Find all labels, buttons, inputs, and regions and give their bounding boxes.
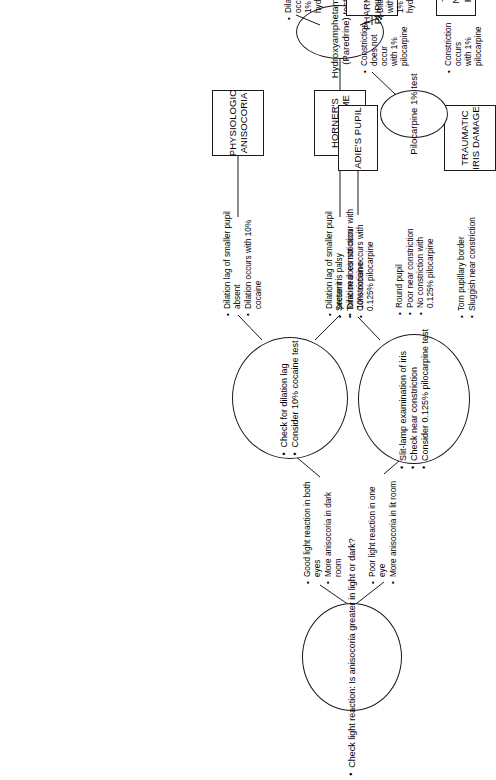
label-adies-item-0: Sector iris palsy xyxy=(335,214,345,318)
label-light-branch: Poor light reaction in one eye More anis… xyxy=(368,472,399,584)
label-pilocarpine-positive-item-0: Constriction occurs with 1% pilocarpine xyxy=(444,15,484,73)
node-slit-lamp-item-0: Slit-lamp examination of iris xyxy=(398,329,409,469)
node-pilocarpine-test-text: Pilocarpine 1% test xyxy=(408,67,420,160)
node-slit-lamp-item-2: Consider 0.125% pilocarpine test xyxy=(420,329,431,469)
label-torn-iris: Torn pupillary border Sluggish near cons… xyxy=(457,216,478,318)
label-hydroxy-positive: Dilation occurs with 1% hydroxyamphetami… xyxy=(376,0,417,20)
label-hydroxy-negative: Dilation does not occur with 1% hydroxya… xyxy=(284,0,325,20)
node-cocaine-test-text: Check for dilation lag Consider 10% coca… xyxy=(279,334,301,461)
node-adies-pupil[interactable]: ADIE'S PUPIL xyxy=(338,105,378,171)
node-slit-lamp-item-1: Check near constriction xyxy=(409,329,420,469)
label-torn-iris-item-1: Sluggish near constriction xyxy=(468,216,478,318)
label-adies-item-1: Tonic near constriction xyxy=(346,214,356,318)
label-cocaine-negative-item-0: Dilation lag of smaller pupil absent xyxy=(223,208,243,316)
label-light-branch-item-0: Poor light reaction in one eye xyxy=(368,472,388,584)
label-dark-branch: Good light reaction in both eyes More an… xyxy=(303,472,344,584)
label-round-pupil-item-1: Poor near constriction xyxy=(406,211,416,315)
label-round-pupil-item-2: No constriction with 0.125% pilocarpine xyxy=(416,211,436,315)
node-cocaine-test[interactable]: Check for dilation lag Consider 10% coca… xyxy=(232,337,348,459)
label-adies-item-2: Constriction occurs with 0.125% pilocarp… xyxy=(356,214,376,318)
node-slit-lamp-exam-text: Slit-lamp examination of iris Check near… xyxy=(398,323,431,475)
label-torn-iris-item-0: Torn pupillary border xyxy=(457,216,467,318)
label-pilocarpine-positive: Constriction occurs with 1% pilocarpine xyxy=(444,15,485,73)
node-physiologic-anisocoria[interactable]: PHYSIOLOGIC ANISOCORIA xyxy=(212,90,264,156)
label-dark-branch-item-0: Good light reaction in both eyes xyxy=(303,472,323,584)
node-pilocarpine-test[interactable]: Pilocarpine 1% test xyxy=(380,90,448,138)
label-dark-branch-item-1: More anisocoria in dark room xyxy=(324,472,344,584)
label-cocaine-negative-item-1: Dilation occurs with 10% cocaine xyxy=(244,208,264,316)
label-round-pupil: Round pupil Poor near constriction No co… xyxy=(395,211,437,315)
label-round-pupil-item-0: Round pupil xyxy=(395,211,405,315)
node-start[interactable]: Check light reaction: Is anisocoria grea… xyxy=(302,603,402,711)
node-cocaine-test-item-1: Consider 10% cocaine test xyxy=(290,340,301,455)
label-hydroxy-negative-item-0: Dilation does not occur with 1% hydroxya… xyxy=(284,0,324,20)
node-start-item: Check light reaction: Is anisocoria grea… xyxy=(347,538,358,776)
node-start-text: Check light reaction: Is anisocoria grea… xyxy=(347,532,358,780)
node-cocaine-test-item-0: Check for dilation lag xyxy=(279,340,290,455)
label-light-branch-item-1: More anisocoria in lit room xyxy=(389,472,399,584)
label-cocaine-negative: Dilation lag of smaller pupil absent Dil… xyxy=(223,208,264,316)
node-third-nerve-palsy[interactable]: THIRD NERVE PALSY xyxy=(436,0,476,16)
node-traumatic-iris-damage[interactable]: TRAUMATIC IRIS DAMAGE xyxy=(444,105,496,171)
node-slit-lamp-exam[interactable]: Slit-lamp examination of iris Check near… xyxy=(358,334,470,464)
label-hydroxy-positive-item-0: Dilation occurs with 1% hydroxyamphetami… xyxy=(376,0,416,20)
label-adies: Sector iris palsy Tonic near constrictio… xyxy=(335,214,377,318)
